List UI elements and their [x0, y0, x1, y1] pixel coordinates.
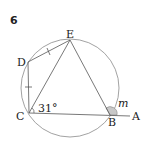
point-label-C: C	[16, 110, 24, 123]
problem-number: 6	[10, 14, 18, 27]
point-label-B: B	[108, 116, 116, 129]
point-label-E: E	[66, 28, 74, 41]
point-label-D: D	[17, 56, 26, 69]
segment-DC	[28, 62, 29, 113]
geometry-diagram: 6 E D C B A 31° m	[0, 0, 150, 144]
segment-EB	[70, 40, 110, 115]
angle-arc-C	[32, 108, 34, 113]
angle-label-m: m	[118, 97, 128, 110]
point-label-A: A	[131, 110, 141, 123]
angle-label-31: 31°	[38, 102, 58, 115]
circle	[21, 39, 119, 137]
